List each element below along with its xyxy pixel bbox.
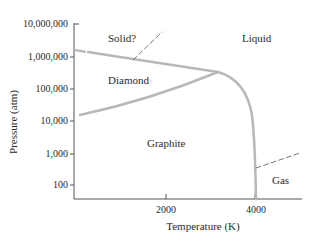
- dotted-extension-line: [75, 50, 86, 52]
- solid-dashed-boundary: [133, 32, 162, 60]
- phase-curves: [75, 32, 300, 199]
- axes: [70, 23, 302, 199]
- region-label-liquid: Liquid: [242, 32, 272, 44]
- diamond-upper-boundary: [88, 52, 218, 72]
- y-tick-label: 100,000: [36, 83, 69, 94]
- phase-diagram-chart: 10,000,000 1,000,000 100,000 10,000 1,00…: [0, 0, 312, 242]
- gas-dashed-boundary: [256, 153, 300, 168]
- graphite-liquid-boundary: [218, 72, 256, 199]
- diamond-graphite-boundary: [80, 72, 218, 115]
- y-tick-labels: 10,000,000 1,000,000 100,000 10,000 1,00…: [23, 18, 68, 190]
- y-tick-label: 1,000,000: [28, 51, 68, 62]
- x-tick-labels: 2000 4000: [156, 204, 266, 215]
- region-labels: Solid? Liquid Diamond Graphite Gas: [108, 32, 289, 186]
- y-tick-label: 1,000: [46, 148, 69, 159]
- y-axis-title: Pressure (atm): [7, 90, 20, 154]
- region-label-graphite: Graphite: [147, 137, 186, 149]
- x-tick-label: 4000: [246, 204, 266, 215]
- region-label-gas: Gas: [272, 174, 289, 186]
- y-tick-label: 10,000: [41, 115, 69, 126]
- region-label-diamond: Diamond: [108, 74, 149, 86]
- y-tick-label: 100: [53, 179, 68, 190]
- x-tick-label: 2000: [156, 204, 176, 215]
- y-tick-label: 10,000,000: [23, 18, 68, 29]
- x-axis-title: Temperature (K): [166, 220, 240, 233]
- region-label-solid: Solid?: [108, 32, 136, 44]
